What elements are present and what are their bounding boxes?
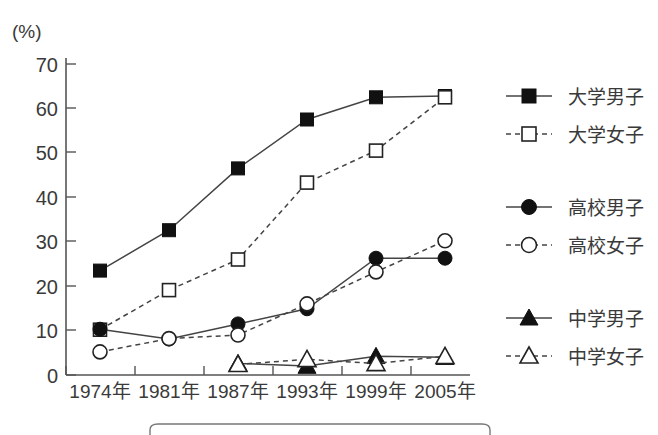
y-tick-label-20: 20	[36, 276, 58, 298]
legend-item-daigaku-danshi[interactable]: 大学男子	[506, 87, 644, 108]
line-chart: (%) 70 60 50 40 30 20 10 0	[0, 0, 658, 435]
data-point-marker	[370, 144, 383, 157]
data-point-marker	[436, 347, 454, 363]
data-point-marker	[163, 284, 176, 297]
legend-label-3: 高校女子	[568, 236, 644, 257]
legend-label-0: 大学男子	[568, 87, 644, 108]
legend-label-2: 高校男子	[568, 198, 644, 219]
series-line	[100, 258, 445, 339]
open-circle-icon	[522, 238, 537, 253]
y-tick-label-10: 10	[36, 320, 58, 342]
series-0	[94, 90, 452, 278]
x-axis: 1974年 1981年 1987年 1993年 1999年 2005年	[66, 366, 476, 402]
data-point-marker	[301, 176, 314, 189]
data-point-marker	[439, 91, 452, 104]
data-point-marker	[298, 350, 316, 366]
y-tick-marks	[66, 64, 76, 375]
caption-frame	[150, 424, 490, 435]
data-point-marker	[93, 345, 107, 359]
y-tick-label-30: 30	[36, 231, 58, 253]
filled-square-icon	[522, 89, 536, 103]
legend-item-chuugaku-joshi[interactable]: 中学女子	[506, 347, 644, 368]
y-tick-label-50: 50	[36, 142, 58, 164]
y-tick-label-70: 70	[36, 54, 58, 76]
filled-triangle-icon	[520, 309, 538, 325]
x-tick-label-1993: 1993年	[276, 381, 337, 402]
legend-item-chuugaku-danshi[interactable]: 中学男子	[506, 309, 644, 330]
data-point-marker	[438, 234, 452, 248]
series-line	[100, 96, 445, 271]
data-point-marker	[438, 251, 452, 265]
legend-label-1: 大学女子	[568, 125, 644, 146]
data-point-marker	[231, 328, 245, 342]
x-tick-label-1981: 1981年	[138, 381, 199, 402]
filled-circle-icon	[522, 200, 537, 215]
y-axis-unit-label: (%)	[12, 21, 42, 42]
data-point-marker	[232, 162, 245, 175]
data-point-marker	[162, 332, 176, 346]
series-2	[93, 251, 452, 346]
data-point-marker	[301, 113, 314, 126]
y-axis: 70 60 50 40 30 20 10 0	[36, 54, 76, 387]
data-point-marker	[369, 265, 383, 279]
x-tick-label-1974: 1974年	[69, 381, 130, 402]
y-tick-label-40: 40	[36, 187, 58, 209]
legend-label-4: 中学男子	[568, 309, 644, 330]
data-point-marker	[232, 253, 245, 266]
y-tick-label-60: 60	[36, 98, 58, 120]
chart-legend: 大学男子 大学女子 高校男子 高校女子 中学男子	[506, 87, 644, 368]
data-point-marker	[163, 224, 176, 237]
data-point-marker	[369, 251, 383, 265]
x-tick-label-2005: 2005年	[414, 381, 475, 402]
legend-item-koukou-joshi[interactable]: 高校女子	[506, 236, 644, 257]
data-point-marker	[93, 322, 107, 336]
legend-item-koukou-danshi[interactable]: 高校男子	[506, 198, 644, 219]
series-1	[94, 91, 452, 336]
data-point-marker	[94, 264, 107, 277]
series-3	[93, 234, 452, 359]
legend-item-daigaku-joshi[interactable]: 大学女子	[506, 125, 644, 146]
x-tick-label-1987: 1987年	[207, 381, 268, 402]
x-tick-label-1999: 1999年	[345, 381, 406, 402]
chart-container: (%) 70 60 50 40 30 20 10 0	[0, 0, 658, 435]
series-line	[100, 97, 445, 329]
open-square-icon	[522, 127, 536, 141]
legend-label-5: 中学女子	[568, 347, 644, 368]
data-point-marker	[300, 297, 314, 311]
open-triangle-icon	[520, 347, 538, 363]
y-tick-label-0: 0	[47, 365, 58, 387]
series-layer	[93, 90, 454, 374]
data-point-marker	[370, 91, 383, 104]
